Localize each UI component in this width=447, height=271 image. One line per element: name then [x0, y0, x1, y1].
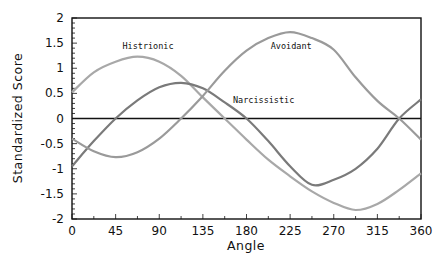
- line-chart: 21.510.50-0.5-1-1.5-2 045901351802252703…: [0, 0, 447, 271]
- series-line-histrionic: [72, 57, 421, 210]
- y-tick-label: -2: [52, 212, 64, 226]
- series-layer: [72, 32, 421, 210]
- y-tick-label: -0.5: [41, 137, 64, 151]
- x-tick-label: 90: [152, 224, 167, 238]
- y-tick-label: -1.5: [41, 187, 64, 201]
- series-label-narcissistic: Narcissistic: [233, 95, 294, 105]
- x-tick-label: 0: [68, 224, 76, 238]
- x-tick-label: 180: [235, 224, 258, 238]
- series-labels: HistrionicNarcissisticAvoidant: [122, 41, 311, 105]
- x-tick-label: 270: [322, 224, 345, 238]
- y-tick-label: 1.5: [45, 36, 64, 50]
- series-label-avoidant: Avoidant: [271, 41, 312, 51]
- y-tick-label: 0.5: [45, 86, 64, 100]
- y-tick-label: 0: [56, 112, 64, 126]
- x-tick-label: 225: [279, 224, 302, 238]
- y-tick-label: -1: [52, 162, 64, 176]
- y-axis-title: Standardized Score: [10, 53, 25, 184]
- y-tick-label: 2: [56, 11, 64, 25]
- x-tick-label: 360: [410, 224, 433, 238]
- series-label-histrionic: Histrionic: [122, 41, 173, 51]
- x-tick-label: 315: [366, 224, 389, 238]
- x-axis: 04590135180225270315360: [68, 214, 432, 238]
- x-axis-title: Angle: [227, 238, 265, 253]
- x-tick-label: 45: [108, 224, 123, 238]
- y-tick-label: 1: [56, 61, 64, 75]
- x-tick-label: 135: [191, 224, 214, 238]
